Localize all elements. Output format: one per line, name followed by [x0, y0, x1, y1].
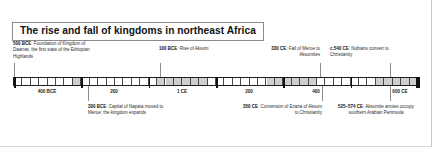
- axis-minor-segment: [199, 78, 207, 85]
- axis-minor-segment: [107, 78, 115, 85]
- axis-minor-segment: [401, 78, 409, 85]
- event-label-540-ce: c.540 CE: Nubians convert to Christianit…: [330, 46, 402, 59]
- event-lead: 330 CE: [271, 46, 286, 51]
- axis-minor-segment: [233, 78, 241, 85]
- event-label-300-bce: 300 BCE: Capital of Napata moved to Mero…: [88, 104, 166, 117]
- event-stem-525-574-ce: [390, 86, 391, 101]
- event-stem-540-ce: [390, 63, 391, 77]
- axis-tick-label: 200: [110, 89, 118, 94]
- event-stem-300-bce: [88, 86, 89, 101]
- axis-minor-segment: [73, 78, 81, 85]
- axis-minor-segment: [115, 78, 123, 85]
- event-label-100-bce: 100 BCE: Rise of Aksum: [159, 46, 219, 52]
- axis-minor-segment: [208, 78, 216, 85]
- axis-minor-segment: [241, 78, 249, 85]
- event-stem-350-ce: [322, 86, 323, 101]
- axis-minor-segment: [56, 78, 64, 85]
- axis-major-tick: [149, 77, 151, 88]
- axis-end-cap: [416, 77, 418, 88]
- axis-end-cap: [14, 77, 16, 88]
- event-lead: 300 BCE: [88, 104, 106, 109]
- axis-major-tick: [351, 77, 353, 88]
- event-label-350-ce: 350 CE: Conversion of Ezana of Aksum to …: [242, 104, 322, 117]
- axis-major-tick: [216, 77, 218, 88]
- axis-minor-segment: [300, 78, 308, 85]
- axis-minor-segment: [48, 78, 56, 85]
- axis-minor-segment: [359, 78, 367, 85]
- axis-tick-label: 200: [245, 89, 253, 94]
- event-stem-330-ce: [320, 63, 321, 77]
- axis-minor-segment: [342, 78, 350, 85]
- axis-minor-segment: [292, 78, 300, 85]
- event-lead: 100 BCE: [159, 46, 177, 51]
- event-lead: c.540 CE: [330, 46, 349, 51]
- event-label-500-bce: 500 BCE: Foundation of Kingdom of Daamat…: [13, 41, 91, 60]
- axis-minor-segment: [31, 78, 39, 85]
- axis-minor-segment: [224, 78, 232, 85]
- event-body: : Rise of Aksum: [177, 46, 208, 51]
- axis-minor-segment: [258, 78, 266, 85]
- event-label-525-574-ce: 525–574 CE: Aksumite armies occupy south…: [330, 104, 422, 117]
- axis-tick-label: 600 CE: [392, 89, 407, 94]
- axis-minor-segment: [191, 78, 199, 85]
- axis-minor-segment: [140, 78, 148, 85]
- axis-minor-segment: [384, 78, 392, 85]
- axis-tick-label: 1 CE: [177, 89, 187, 94]
- event-body: : Fall of Meroe to Aksumites: [286, 46, 320, 57]
- axis-minor-segment: [157, 78, 165, 85]
- event-stem-500-bce: [14, 63, 15, 77]
- axis-tick-label: 400 BCE: [38, 89, 57, 94]
- event-lead: 500 BCE: [13, 41, 31, 46]
- axis-minor-segment: [90, 78, 98, 85]
- axis-minor-segment: [325, 78, 333, 85]
- axis-minor-segment: [368, 78, 376, 85]
- axis-minor-segment: [376, 78, 384, 85]
- axis-minor-segment: [123, 78, 131, 85]
- axis-major-tick: [81, 77, 83, 88]
- axis-minor-segment: [182, 78, 190, 85]
- axis-minor-segment: [250, 78, 258, 85]
- timeline-axis: [13, 77, 417, 86]
- axis-major-tick: [283, 77, 285, 88]
- page-title: The rise and fall of kingdoms in northea…: [12, 22, 264, 41]
- axis-minor-segment: [334, 78, 342, 85]
- axis-minor-segment: [393, 78, 401, 85]
- axis-minor-segment: [65, 78, 73, 85]
- event-stem-100-bce: [160, 63, 161, 77]
- axis-minor-segment: [166, 78, 174, 85]
- axis-minor-segment: [174, 78, 182, 85]
- event-lead: 525–574 CE: [338, 104, 363, 109]
- axis-minor-segment: [132, 78, 140, 85]
- axis-minor-segment: [98, 78, 106, 85]
- axis-minor-segment: [39, 78, 47, 85]
- event-body: : Conversion of Ezana of Aksum to Christ…: [258, 104, 322, 115]
- event-lead: 350 CE: [243, 104, 258, 109]
- axis-minor-segment: [309, 78, 317, 85]
- axis-tick-label: 400: [312, 89, 320, 94]
- timeline-figure: The rise and fall of kingdoms in northea…: [0, 0, 432, 147]
- axis-minor-segment: [317, 78, 325, 85]
- axis-minor-segment: [267, 78, 275, 85]
- axis-minor-segment: [22, 78, 30, 85]
- event-label-330-ce: 330 CE: Fall of Meroe to Aksumites: [252, 46, 320, 59]
- axis-minor-segment: [275, 78, 283, 85]
- axis-major-tick: [418, 77, 420, 88]
